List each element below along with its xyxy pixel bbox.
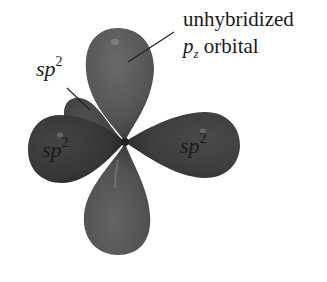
- sp2-back-label: sp2: [36, 58, 63, 80]
- pz-orbital-label: pz orbital: [183, 36, 259, 57]
- highlight: [111, 39, 119, 45]
- orbital-diagram: unhybridized pz orbital sp2 sp2 sp2: [0, 0, 327, 282]
- unhybridized-label: unhybridized: [183, 9, 294, 30]
- nucleus: [121, 138, 129, 146]
- sp2-right-label: sp2: [180, 135, 207, 157]
- pz-prefix: p: [183, 34, 194, 58]
- pz-suffix: orbital: [199, 34, 259, 58]
- sp2-left-label: sp2: [42, 139, 69, 161]
- pz-subscript: z: [194, 46, 199, 61]
